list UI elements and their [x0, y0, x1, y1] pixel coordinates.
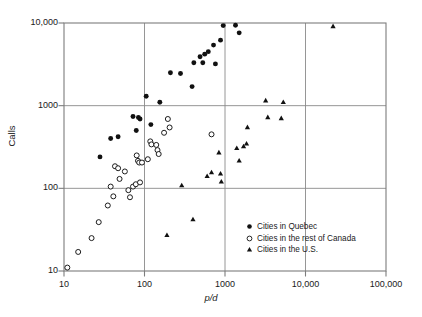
data-point	[263, 98, 268, 103]
data-point	[126, 188, 131, 193]
data-point	[162, 130, 167, 135]
data-point	[98, 154, 103, 159]
data-point	[134, 153, 139, 158]
series-cities-in-the-rest-of-canada	[65, 116, 214, 270]
x-tick-label-1000: 1000	[195, 279, 255, 289]
legend-item-2: Cities in the U.S.	[243, 244, 356, 255]
y-tick-label-10000: 10,000	[8, 17, 58, 27]
data-point	[206, 49, 211, 54]
data-point	[281, 99, 286, 104]
data-point	[237, 158, 242, 163]
y-tick-label-100: 100	[8, 182, 58, 192]
data-point	[96, 220, 101, 225]
data-point	[108, 136, 113, 141]
data-point	[178, 71, 183, 76]
data-point	[139, 160, 144, 165]
legend-label: Cities in the U.S.	[255, 245, 318, 254]
data-point	[198, 54, 203, 59]
open-circle-icon	[243, 234, 255, 243]
data-point	[237, 30, 242, 35]
data-point	[216, 150, 221, 155]
data-point	[233, 23, 238, 28]
data-point	[149, 142, 154, 147]
series-cities-in-the-us	[164, 24, 335, 238]
data-point	[244, 141, 249, 146]
data-point	[218, 38, 223, 43]
data-point	[209, 132, 214, 137]
data-point	[190, 217, 195, 222]
x-tick-label-100: 100	[115, 279, 175, 289]
data-point	[127, 195, 132, 200]
filled-triangle-icon	[243, 245, 255, 254]
plot-canvas	[0, 0, 422, 317]
data-point	[265, 115, 270, 120]
data-point	[138, 180, 143, 185]
x-tick-label-100000: 100,000	[356, 279, 416, 289]
data-point	[200, 60, 205, 65]
data-point	[190, 84, 195, 89]
data-point	[164, 232, 169, 237]
data-point	[218, 171, 223, 176]
data-point	[117, 176, 122, 181]
data-point	[279, 116, 284, 121]
y-tick-label-1000: 1000	[8, 100, 58, 110]
series-cities-in-quebec	[98, 23, 242, 160]
data-point	[89, 236, 94, 241]
data-point	[219, 179, 224, 184]
chart-legend: Cities in QuebecCities in the rest of Ca…	[243, 221, 356, 255]
data-point	[148, 122, 153, 127]
data-point	[221, 23, 226, 28]
data-point	[209, 170, 214, 175]
data-point	[111, 194, 116, 199]
data-point	[134, 128, 139, 133]
data-point	[157, 100, 162, 105]
data-point	[211, 43, 216, 48]
data-point	[105, 203, 110, 208]
x-axis-title: p/d	[0, 292, 422, 303]
y-axis-title: Calls	[6, 116, 17, 156]
filled-circle-icon	[243, 222, 255, 231]
legend-label: Cities in Quebec	[255, 222, 317, 231]
data-point	[330, 24, 335, 29]
data-point	[213, 61, 218, 66]
data-point	[116, 166, 121, 171]
data-point	[108, 184, 113, 189]
x-tick-label-10: 10	[34, 279, 94, 289]
data-point	[156, 152, 161, 157]
data-point	[144, 94, 149, 99]
data-point	[65, 265, 70, 270]
y-tick-label-10: 10	[8, 265, 58, 275]
data-point	[179, 183, 184, 188]
data-point	[76, 249, 81, 254]
data-point	[191, 60, 196, 65]
data-point	[145, 157, 150, 162]
data-point	[205, 173, 210, 178]
scatter-chart-figure: 10100100010,000 10100100010,000100,000 C…	[0, 0, 422, 317]
data-point	[165, 116, 170, 121]
legend-item-1: Cities in the rest of Canada	[243, 232, 356, 243]
data-point	[122, 169, 127, 174]
data-point	[131, 114, 136, 119]
x-tick-label-10000: 10,000	[276, 279, 336, 289]
data-point	[167, 125, 172, 130]
data-point	[154, 142, 159, 147]
data-point	[245, 125, 250, 130]
data-point	[168, 70, 173, 75]
legend-item-0: Cities in Quebec	[243, 221, 356, 232]
data-point	[138, 117, 143, 122]
data-point	[234, 145, 239, 150]
data-point	[116, 134, 121, 139]
legend-label: Cities in the rest of Canada	[255, 234, 356, 243]
